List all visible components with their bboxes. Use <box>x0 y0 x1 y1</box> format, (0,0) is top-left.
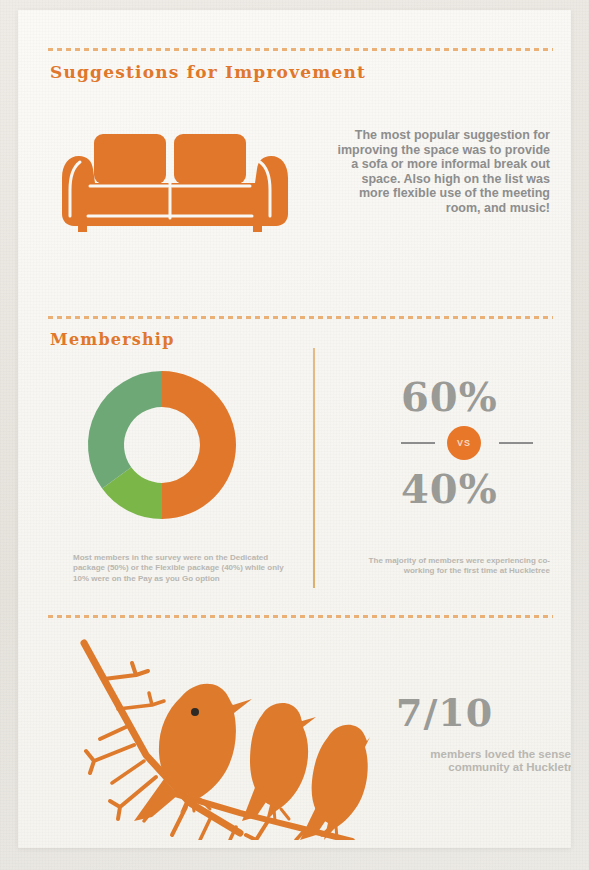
divider-top <box>48 48 553 51</box>
stat-40-percent: 40% <box>401 465 498 512</box>
membership-donut-chart <box>62 365 262 525</box>
membership-stat-caption: The majority of members were experiencin… <box>343 556 550 577</box>
stat-seven-out-of-ten: 7/10 <box>396 690 493 735</box>
stat-60-percent: 60% <box>401 373 498 420</box>
vs-badge: vs <box>447 426 481 460</box>
divider-middle <box>48 316 553 319</box>
suggestions-title: Suggestions for Improvement <box>50 62 366 82</box>
donut-caption: Most members in the survey were on the D… <box>73 553 295 584</box>
divider-bottom <box>48 615 553 618</box>
vs-line-right <box>499 442 533 444</box>
membership-vertical-divider <box>313 348 315 588</box>
sofa-icon <box>50 122 300 232</box>
membership-title: Membership <box>50 330 175 349</box>
community-caption: members loved the sense of community at … <box>375 748 571 775</box>
page-background: Suggestions for Improvement <box>0 0 589 870</box>
vs-comparator: vs <box>401 426 533 460</box>
infographic-card: Suggestions for Improvement <box>18 10 571 848</box>
vs-line-left <box>401 442 435 444</box>
birds-on-branch-icon <box>60 635 370 840</box>
suggestions-body: The most popular suggestion for improvin… <box>335 128 550 215</box>
